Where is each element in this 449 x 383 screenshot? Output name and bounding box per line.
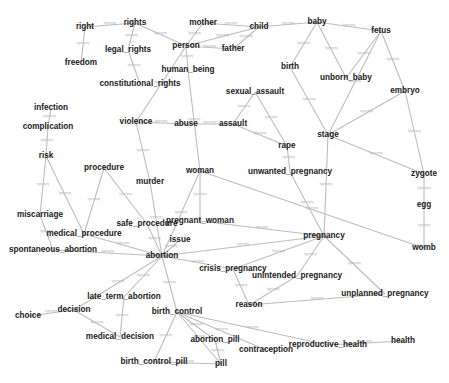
node-risk[interactable]: risk [39, 151, 54, 160]
edge-label: hypernymy [265, 115, 278, 119]
edge-baby-unborn_baby [317, 22, 346, 78]
edge-label: hypernymy [215, 327, 228, 331]
node-pill[interactable]: pill [215, 359, 227, 368]
node-person[interactable]: person [172, 41, 199, 50]
edge-label: hypernymy [188, 31, 201, 35]
node-abuse[interactable]: abuse [174, 119, 198, 128]
node-murder[interactable]: murder [136, 177, 165, 186]
node-infection[interactable]: infection [34, 103, 68, 112]
node-sexual-assault[interactable]: sexual_assault [226, 87, 285, 96]
node-stage[interactable]: stage [317, 130, 339, 139]
node-pregnancy[interactable]: pregnancy [303, 231, 345, 240]
edge-label: hypernymy [360, 109, 373, 113]
node-miscarriage[interactable]: miscarriage [17, 210, 63, 219]
node-safe-procedure[interactable]: safe_procedure [117, 219, 178, 228]
edge-violence-murder [136, 122, 150, 182]
edge-embryo-zygote [405, 91, 424, 174]
node-unwanted-pregnancy[interactable]: unwanted_pregnancy [248, 167, 333, 176]
node-mother[interactable]: mother [189, 18, 218, 27]
edge-label: hypernymy [137, 273, 150, 277]
node-health[interactable]: health [391, 336, 415, 345]
node-medical-decision[interactable]: medical_decision [86, 332, 154, 341]
edge-label: hypernymy [306, 206, 319, 210]
node-zygote[interactable]: zygote [411, 169, 437, 178]
node-birth-control[interactable]: birth_control [152, 307, 203, 316]
edge-label: hypernymy [301, 200, 314, 204]
edge-label: hypernymy [237, 242, 250, 246]
edge-label: hypernymy [303, 97, 316, 101]
edge-abortion-birth_control [162, 256, 177, 312]
node-medical-procedure[interactable]: medical_procedure [46, 229, 122, 238]
edge-label: hypernymy [194, 192, 207, 196]
node-right[interactable]: right [76, 22, 94, 31]
edge-label: hypernymy [101, 249, 114, 253]
edge-label: hypernymy [370, 151, 383, 155]
node-woman[interactable]: woman [185, 166, 214, 175]
node-spontaneous-abortion[interactable]: spontaneous_abortion [9, 245, 97, 254]
node-issue[interactable]: issue [170, 235, 191, 244]
node-embryo[interactable]: embryo [390, 86, 420, 95]
edge-abortion-decision [74, 256, 162, 310]
node-baby[interactable]: baby [307, 17, 327, 26]
edge-label: hypernymy [418, 223, 431, 227]
node-freedom[interactable]: freedom [65, 58, 97, 67]
edge-pregnancy-unplanned_pregnancy [324, 236, 385, 294]
edge-label: hypernymy [282, 21, 295, 25]
node-reason[interactable]: reason [236, 300, 263, 309]
node-birth-control-pill[interactable]: birth_control_pill [121, 357, 188, 366]
node-unintended-pregnancy[interactable]: unintended_pregnancy [252, 271, 343, 280]
node-decision[interactable]: decision [57, 305, 90, 314]
node-abortion[interactable]: abortion [146, 251, 179, 260]
node-late-term-abortion[interactable]: late_term_abortion [87, 292, 161, 301]
node-fetus[interactable]: fetus [371, 26, 391, 35]
edge-label: hypernymy [235, 283, 248, 287]
node-human-being[interactable]: human_being [161, 65, 214, 74]
edge-stage-zygote [328, 135, 424, 174]
edge-label: hypernymy [297, 41, 310, 45]
node-birth[interactable]: birth [281, 62, 299, 71]
edge-label: hypernymy [117, 241, 130, 245]
edge-label: hypernymy [212, 348, 225, 352]
edge-label: hypernymy [238, 104, 251, 108]
edge-label: hypernymy [155, 119, 168, 123]
node-reproductive-health[interactable]: reproductive_health [289, 340, 367, 349]
edge-label: hypernymy [41, 138, 54, 142]
node-abortion-pill[interactable]: abortion_pill [190, 335, 239, 344]
edge-label: hypernymy [154, 31, 167, 35]
node-choice[interactable]: choice [15, 311, 41, 320]
node-legal-rights[interactable]: legal_rights [105, 45, 151, 54]
node-womb[interactable]: womb [411, 243, 436, 252]
edge-label: hypernymy [311, 296, 324, 300]
edge-label: hypernymy [272, 249, 285, 253]
edge-stage-pregnancy [324, 135, 328, 236]
edge-label: hypernymy [225, 21, 238, 25]
node-child[interactable]: child [249, 22, 268, 31]
edge-label: hypernymy [282, 155, 295, 159]
edge-label: hypernymy [181, 54, 194, 58]
edge-label: hypernymy [256, 225, 269, 229]
node-complication[interactable]: complication [23, 122, 74, 131]
node-procedure[interactable]: procedure [84, 163, 124, 172]
edge-label: hypernymy [246, 325, 259, 329]
edge-label: hypernymy [137, 148, 150, 152]
node-rights[interactable]: rights [124, 18, 147, 27]
edge-label: hypernymy [348, 261, 361, 265]
edge-label: hypernymy [254, 131, 267, 135]
node-father[interactable]: father [222, 44, 246, 53]
edge-label: hypernymy [148, 236, 161, 240]
node-egg[interactable]: egg [417, 200, 432, 209]
node-assault[interactable]: assault [219, 119, 247, 128]
edge-label: hypernymy [387, 57, 400, 61]
node-violence[interactable]: violence [120, 117, 153, 126]
edge-label: hypernymy [91, 320, 104, 324]
edge-label: hypernymy [165, 244, 178, 248]
node-unplanned-pregnancy[interactable]: unplanned_pregnancy [341, 289, 429, 298]
edge-label: hypernymy [240, 34, 253, 38]
node-rape[interactable]: rape [278, 141, 296, 150]
node-unborn-baby[interactable]: unborn_baby [320, 73, 372, 82]
edge-sexual_assault-rape [255, 92, 287, 146]
node-constitutional-rights[interactable]: constitutional_rights [100, 79, 181, 88]
edge-label: hypernymy [418, 186, 431, 190]
node-contraception[interactable]: contraception [239, 345, 293, 354]
edge-label: hypernymy [37, 182, 50, 186]
